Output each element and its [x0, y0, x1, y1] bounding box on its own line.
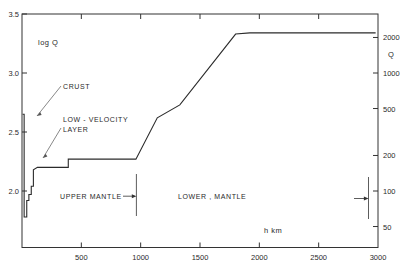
y-tick-label-right-5: 2000 — [383, 33, 400, 42]
y-axis-label-log-q: log Q — [38, 38, 58, 47]
x-axis-ticks: 50010001500200025003000 — [75, 243, 386, 262]
annotation-lower-mantle-label: LOWER , MANTLE — [178, 193, 246, 200]
x-axis-top-ticks — [81, 14, 318, 19]
lvl-arrow-icon — [43, 154, 47, 158]
y-tick-label-left-2: 3.0 — [9, 69, 19, 78]
chart-svg: 2.02.53.03.5 5010020050010002000 5001000… — [0, 0, 414, 272]
y-tick-label-left-0: 2.0 — [9, 187, 19, 196]
x-tick-label-1: 500 — [75, 253, 88, 262]
x-tick-label-6: 3000 — [370, 253, 387, 262]
data-curve-log-q — [23, 33, 376, 217]
y-tick-label-right-2: 200 — [383, 151, 396, 160]
chart-figure: 2.02.53.03.5 5010020050010002000 5001000… — [0, 0, 414, 272]
x-axis-label-h-km: h km — [264, 226, 282, 235]
y-tick-label-right-1: 100 — [383, 187, 396, 196]
y-axis-right-ticks: 5010020050010002000 — [373, 33, 400, 231]
annotation-upper-mantle-label: UPPER MANTLE — [60, 193, 122, 200]
lvl-leader-line — [43, 128, 61, 158]
x-tick-label-3: 1500 — [192, 253, 209, 262]
y-tick-label-right-4: 1000 — [383, 69, 400, 78]
y-axis-label-q: Q — [388, 50, 394, 59]
x-tick-label-5: 2500 — [310, 253, 327, 262]
x-tick-label-4: 2000 — [251, 253, 268, 262]
annotation-crust-label: CRUST — [63, 83, 90, 90]
annotation-lvl-label-line1: LOW - VELOCITY — [63, 116, 128, 123]
annotation-lvl-label-line2: LAYER — [63, 126, 88, 133]
y-tick-label-left-1: 2.5 — [9, 128, 19, 137]
upper-mantle-arrow-icon — [132, 194, 137, 198]
y-tick-label-right-0: 50 — [383, 223, 391, 232]
y-tick-label-right-3: 500 — [383, 105, 396, 114]
y-tick-label-left-3: 3.5 — [9, 10, 19, 19]
crust-leader-line — [37, 86, 61, 116]
x-tick-label-2: 1000 — [132, 253, 149, 262]
lower-mantle-arrow-icon — [364, 197, 369, 201]
